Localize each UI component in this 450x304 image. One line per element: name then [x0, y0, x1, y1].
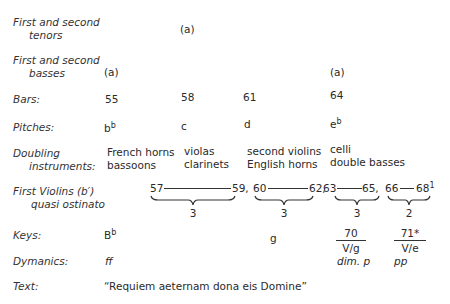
bar-value: 55	[105, 93, 118, 106]
brace-icon	[387, 195, 431, 207]
span-start: 60	[253, 182, 266, 194]
pitch-value: d	[244, 118, 251, 131]
fraction-numerator: 70	[336, 227, 366, 241]
instrument: clarinets	[184, 158, 229, 171]
key-fraction: 71* V/e	[394, 227, 426, 254]
span-line	[164, 188, 231, 189]
doubling-group: violas clarinets	[184, 145, 229, 171]
instrument: celli	[330, 143, 405, 156]
dynamic-value: ff	[105, 255, 113, 268]
span-line	[337, 188, 362, 189]
dynamic-value: pp	[394, 255, 407, 268]
doubling-group: second violins English horns	[247, 145, 321, 171]
span-start: 57	[150, 182, 163, 194]
span-count: 3	[183, 207, 203, 219]
label-line: First and second	[13, 16, 100, 28]
bar-value: 64	[330, 89, 343, 102]
doubling-group: celli double basses	[330, 143, 405, 169]
fraction-denominator: V/g	[336, 241, 366, 254]
label-line: quasi ostinato	[13, 198, 105, 211]
label-line: First and second	[13, 54, 100, 66]
bar-value: 61	[243, 91, 256, 104]
span-line	[400, 188, 414, 189]
basses-mark-2: (a)	[330, 66, 345, 79]
row-label-bars: Bars:	[13, 93, 40, 106]
row-label-tenors: First and second tenors	[13, 16, 100, 42]
instrument: English horns	[247, 158, 321, 171]
pitch-value: bb	[104, 122, 116, 135]
row-label-violins: First Violins (b′) quasi ostinato	[13, 185, 105, 211]
row-label-dynamics: Dymanics:	[13, 255, 68, 268]
brace-icon	[254, 195, 314, 207]
span-end-number: 68	[416, 182, 429, 194]
basses-mark-1: (a)	[104, 66, 119, 79]
label-line: basses	[13, 67, 100, 80]
pitch-value: eb	[330, 118, 342, 131]
doubling-group: French horns bassoons	[107, 146, 175, 172]
label-line: tenors	[13, 29, 100, 42]
span-end: 65,	[362, 182, 379, 194]
span-count: 2	[399, 207, 419, 219]
brace-icon	[150, 195, 236, 207]
tenors-mark: (a)	[180, 23, 195, 36]
pitch-accidental: b	[111, 121, 116, 130]
label-line: Doubling	[13, 147, 60, 159]
span-start: 66	[385, 182, 398, 194]
row-label-pitches: Pitches:	[13, 121, 54, 134]
instrument: violas	[184, 145, 229, 158]
span-end: 681	[416, 182, 434, 194]
key-fraction: 70 V/g	[336, 227, 366, 254]
key-value: Bb	[104, 229, 116, 242]
text-value: “Requiem aeternam dona eis Domine”	[104, 280, 307, 293]
pitch-accidental: b	[336, 117, 341, 126]
label-line: First Violins (b′)	[13, 185, 94, 197]
pitch-base: b	[104, 122, 111, 134]
dynamic-value: dim. p	[337, 255, 370, 268]
span-count: 3	[347, 207, 367, 219]
instrument: French horns	[107, 146, 175, 159]
bar-value: 58	[181, 91, 194, 104]
span-count: 3	[274, 207, 294, 219]
pitch-value: c	[181, 120, 187, 133]
span-end: 59,	[232, 182, 249, 194]
instrument: bassoons	[107, 159, 175, 172]
music-analysis-table: First and second tenors (a) First and se…	[0, 0, 450, 304]
instrument: double basses	[330, 156, 405, 169]
brace-icon	[334, 195, 380, 207]
row-label-text: Text:	[13, 280, 38, 293]
key-value: g	[270, 232, 277, 245]
label-line: instruments:	[13, 160, 96, 173]
fraction-numerator: 71*	[394, 227, 426, 241]
span-start: 63	[323, 182, 336, 194]
row-label-keys: Keys:	[13, 229, 41, 242]
span-line	[268, 188, 308, 189]
key-accidental: b	[111, 228, 116, 237]
row-label-basses: First and second basses	[13, 54, 100, 80]
row-label-doubling: Doubling instruments:	[13, 147, 96, 173]
instrument: second violins	[247, 145, 321, 158]
fraction-denominator: V/e	[394, 241, 426, 254]
footnote-marker: 1	[429, 181, 434, 190]
